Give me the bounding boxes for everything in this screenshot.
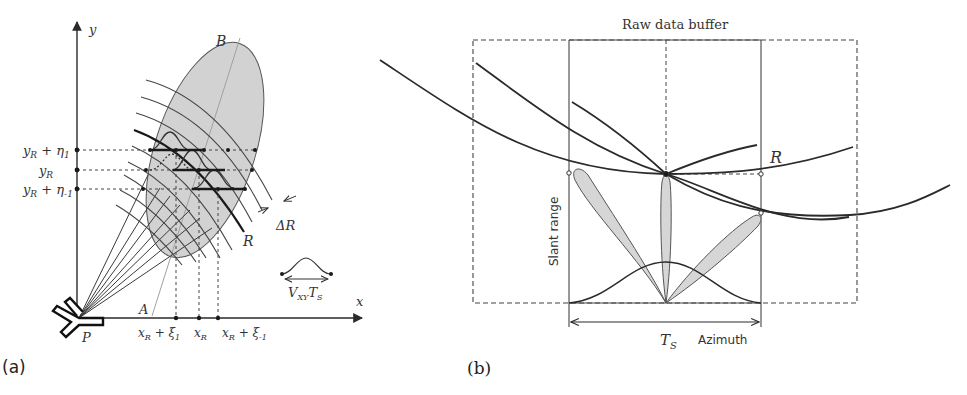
caption-a: (a) — [2, 357, 26, 377]
x-axis-label: x — [356, 294, 364, 309]
label-p: P — [81, 330, 91, 345]
y-tick-1: yR + η1 — [22, 143, 70, 160]
buffer-title: Raw data buffer — [622, 17, 729, 32]
x-tick-2: xR — [194, 326, 207, 342]
label-b: B — [215, 33, 226, 49]
x-tick-1: xR + ξ1 — [138, 326, 180, 342]
figure-canvas: y x B A P R ΔR yR + η1 yR yR + η-1 xR + … — [0, 0, 967, 395]
caption-b: (b) — [467, 358, 491, 378]
x-tick-labels: xR + ξ1 xR xR + ξ-1 — [138, 326, 267, 342]
label-r: R — [242, 233, 254, 249]
azimuth-label: Azimuth — [698, 333, 747, 347]
antenna-beams — [574, 169, 761, 303]
y-axis-label: y — [88, 22, 97, 37]
panel-b: Raw data buffer Slant range Azimuth TS R… — [380, 17, 950, 378]
label-a: A — [138, 302, 148, 317]
label-delta-r: ΔR — [275, 218, 295, 233]
y-tick-2: yR — [38, 163, 53, 180]
motion-label: VXYTS — [288, 285, 323, 302]
y-tick-labels: yR + η1 yR yR + η-1 — [22, 143, 73, 199]
ts-label: TS — [660, 331, 677, 351]
panel-a: y x B A P R ΔR yR + η1 yR yR + η-1 xR + … — [2, 22, 364, 377]
r-label: R — [769, 148, 782, 167]
x-tick-3: xR + ξ-1 — [222, 326, 267, 342]
slant-range-label: Slant range — [547, 197, 561, 266]
platform-motion-indicator — [280, 258, 333, 279]
y-tick-3: yR + η-1 — [22, 182, 73, 199]
delta-r-marker — [258, 196, 296, 212]
